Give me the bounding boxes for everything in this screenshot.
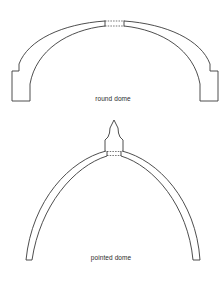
pointed-dome-oculus-dashed <box>107 152 121 156</box>
pointed-dome-caption: pointed dome <box>91 254 132 261</box>
round-dome-right-outer-profile <box>124 21 218 101</box>
dome-comparison-figure: round dome pointed dome <box>0 0 221 282</box>
figure-canvas <box>0 0 221 282</box>
pointed-dome-right-inner-arc <box>121 156 193 260</box>
round-dome-left-outer-profile <box>12 21 105 101</box>
pointed-dome-lantern <box>105 120 123 151</box>
round-dome-left-inner-arc <box>30 26 105 101</box>
round-dome-drawing <box>12 21 218 102</box>
round-dome-right-inner-arc <box>124 26 200 101</box>
round-dome-caption: round dome <box>95 95 131 102</box>
pointed-dome-left-inner-arc <box>32 156 107 260</box>
pointed-dome-drawing <box>26 120 200 260</box>
pointed-dome-right-outer-arc <box>122 151 200 260</box>
round-dome-oculus-dashed <box>105 21 124 26</box>
pointed-dome-left-outer-arc <box>26 151 106 260</box>
